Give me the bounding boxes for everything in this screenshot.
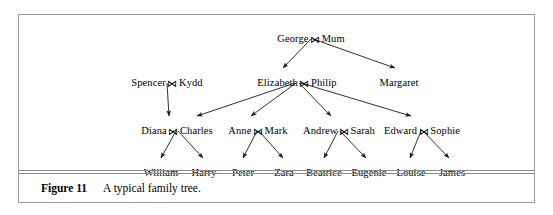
person-name: Mark <box>265 125 288 136</box>
person-name: Sarah <box>351 125 375 136</box>
marriage-bowtie-icon: ⋈ <box>337 126 350 138</box>
person-name: Andrew <box>303 125 337 136</box>
person-name: Anne <box>228 125 251 136</box>
marriage-bowtie-icon: ⋈ <box>309 34 322 46</box>
person-name: Edward <box>384 125 417 136</box>
person-name: Philip <box>311 77 337 88</box>
person-name: Charles <box>180 125 213 136</box>
marriage-bowtie-icon: ⋈ <box>167 126 180 138</box>
tree-node-edward-sophie: Edward⋈Sophie <box>384 125 460 138</box>
tree-node-george-mum: George⋈Mum <box>277 33 344 46</box>
edge-group <box>161 39 449 158</box>
person-name: Elizabeth <box>257 77 298 88</box>
person-name: Spencer <box>131 77 166 88</box>
person-name: Kydd <box>179 77 203 88</box>
person-name: Mum <box>322 33 345 44</box>
marriage-bowtie-icon: ⋈ <box>251 126 264 138</box>
tree-node-anne-mark: Anne⋈Mark <box>228 125 287 138</box>
tree-node-elizabeth-philip: Elizabeth⋈Philip <box>257 77 336 90</box>
figure-frame: George⋈MumSpencer⋈KyddElizabeth⋈PhilipMa… <box>18 14 535 203</box>
caption-text: A typical family tree. <box>103 182 201 194</box>
person-name: Sophie <box>430 125 460 136</box>
person-name: Margaret <box>379 77 418 88</box>
person-name: Diana <box>141 125 167 136</box>
marriage-bowtie-icon: ⋈ <box>298 78 311 90</box>
tree-node-margaret: Margaret <box>379 77 418 89</box>
divider-line-top <box>19 170 534 171</box>
figure-caption: Figure 11 A typical family tree. <box>19 174 534 202</box>
person-name: George <box>277 33 308 44</box>
tree-node-spencer-kydd: Spencer⋈Kydd <box>131 77 202 90</box>
marriage-bowtie-icon: ⋈ <box>166 78 179 90</box>
caption-label: Figure 11 <box>41 182 87 194</box>
tree-node-andrew-sarah: Andrew⋈Sarah <box>303 125 375 138</box>
marriage-bowtie-icon: ⋈ <box>417 126 430 138</box>
tree-node-diana-charles: Diana⋈Charles <box>141 125 212 138</box>
family-tree-diagram: George⋈MumSpencer⋈KyddElizabeth⋈PhilipMa… <box>19 15 534 170</box>
